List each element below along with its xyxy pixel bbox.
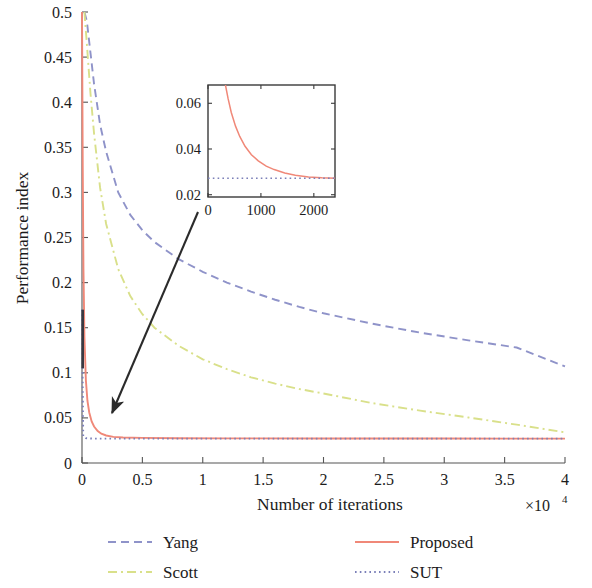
series-line-proposed — [82, 12, 565, 439]
y-tick-label: 0.2 — [52, 274, 72, 291]
x-axis-ticks — [82, 457, 565, 463]
y-tick-label: 0.5 — [52, 4, 72, 21]
legend-label-sut: SUT — [410, 563, 443, 582]
y-tick-label: 0 — [64, 455, 72, 472]
x-axis-title: Number of iterations — [257, 494, 403, 514]
x-tick-label: 1 — [199, 471, 207, 488]
chart-legend: YangProposedScottSUT — [108, 533, 474, 582]
series-line-scott — [84, 12, 565, 432]
inset-x-tick-label: 2000 — [299, 202, 328, 218]
y-tick-label: 0.1 — [52, 364, 72, 381]
inset-callout-arrow — [112, 212, 198, 413]
series-line-sut — [82, 310, 565, 439]
inset-y-tick-label: 0.04 — [176, 141, 202, 157]
main-plot-series — [82, 12, 565, 439]
y-axis-tick-labels: 00.050.10.150.20.250.30.350.40.450.5 — [44, 4, 72, 472]
x-axis-multiplier: ×10 4 — [525, 493, 568, 514]
main-axes: 00.050.10.150.20.250.30.350.40.450.5 00.… — [44, 4, 569, 489]
y-axis-title: Performance index — [12, 171, 32, 304]
y-tick-label: 0.05 — [44, 409, 72, 426]
inset-axes: 0100020000.020.040.06 — [176, 85, 335, 218]
inset-y-tick-label: 0.06 — [176, 95, 201, 111]
y-tick-label: 0.45 — [44, 49, 72, 66]
x-tick-label: 2.5 — [374, 471, 394, 488]
legend-label-yang: Yang — [163, 533, 199, 552]
x-tick-label: 0 — [78, 471, 86, 488]
x-tick-label: 2 — [320, 471, 328, 488]
callout-arrow-line — [112, 212, 198, 413]
performance-index-line-chart: 00.050.10.150.20.250.30.350.40.450.5 00.… — [0, 0, 592, 588]
y-tick-label: 0.4 — [52, 94, 72, 111]
y-tick-label: 0.15 — [44, 319, 72, 336]
inset-x-tick-label: 1000 — [246, 202, 275, 218]
x-multiplier-base: ×10 — [525, 497, 550, 514]
x-tick-label: 3 — [440, 471, 448, 488]
legend-label-scott: Scott — [163, 563, 198, 582]
x-axis-tick-labels: 00.511.522.533.54 — [78, 471, 569, 488]
x-tick-label: 4 — [561, 471, 569, 488]
figure-container: 00.050.10.150.20.250.30.350.40.450.5 00.… — [0, 0, 592, 588]
inset-x-tick-label: 0 — [204, 202, 211, 218]
x-multiplier-exponent: 4 — [562, 493, 568, 505]
x-tick-label: 1.5 — [253, 471, 273, 488]
legend-label-proposed: Proposed — [410, 533, 474, 552]
y-tick-label: 0.25 — [44, 229, 72, 246]
inset-frame — [208, 85, 335, 197]
y-tick-label: 0.3 — [52, 184, 72, 201]
x-tick-label: 0.5 — [132, 471, 152, 488]
inset-y-tick-label: 0.02 — [176, 187, 201, 203]
y-tick-label: 0.35 — [44, 139, 72, 156]
x-tick-label: 3.5 — [495, 471, 515, 488]
